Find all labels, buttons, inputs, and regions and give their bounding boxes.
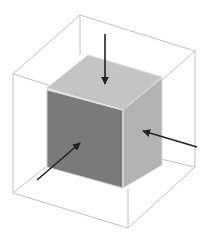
cube-compression-diagram — [0, 0, 206, 241]
